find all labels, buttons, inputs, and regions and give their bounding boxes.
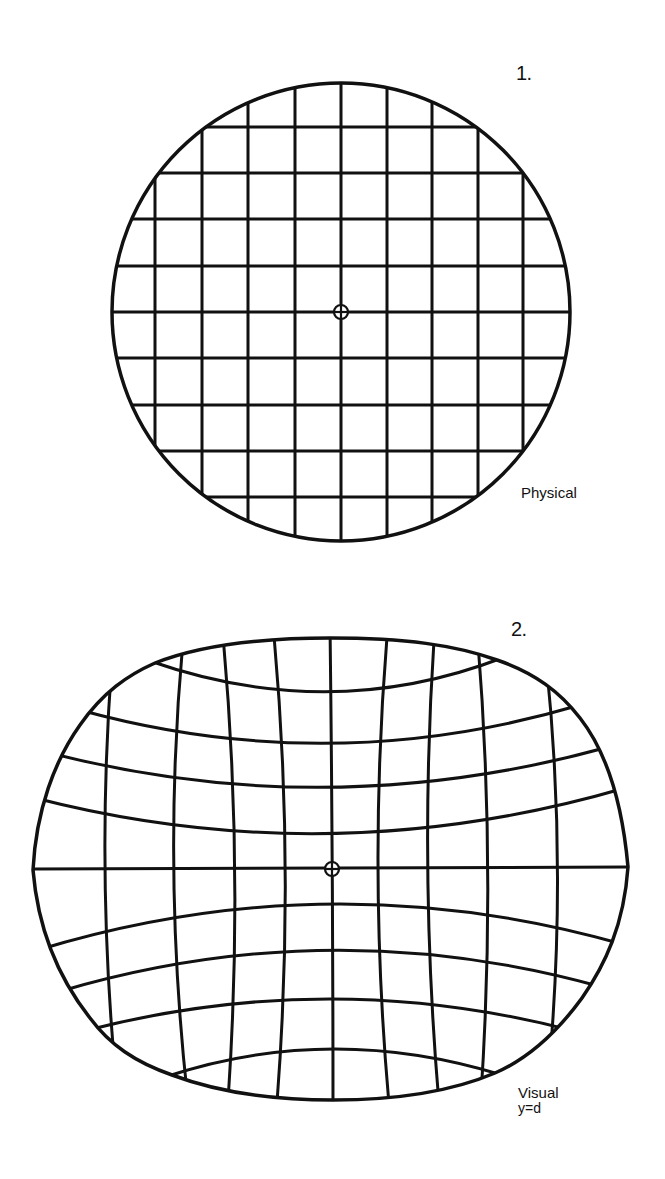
grid-vertical-curve [378,625,390,1115]
grid-horizontal-curve [58,950,602,992]
figure-1-physical-grid [100,60,580,560]
grid-horizontal-curve [88,999,570,1030]
grid-vertical-curve [222,625,235,1115]
grid-horizontal-curve [150,658,502,692]
fixation-cross-icon [325,862,339,876]
grid-vertical-curve [273,625,285,1115]
grid-horizontal-curve [38,904,622,950]
fixation-cross-icon [334,305,348,319]
figure-1-number: 1. [516,62,532,85]
grid-horizontal-curve [35,788,625,834]
figure-2-caption: Visual [518,1085,559,1100]
diagram-stage: 1. Physical 2. Visual y=d [0,0,665,1179]
figure-2-caption-sub: y=d [518,1101,541,1115]
grid-vertical-curve [428,625,440,1115]
figure-2-number: 2. [511,618,527,641]
diagram-canvas [0,0,665,1179]
figure-2-visual-grid [25,625,640,1115]
grid-vertical-curve [477,630,488,1110]
grid-vertical-curve [546,660,558,1080]
figure-1-caption: Physical [521,485,577,500]
